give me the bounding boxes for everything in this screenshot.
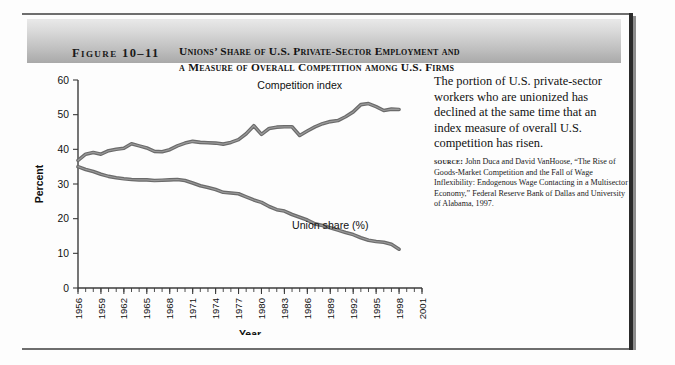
y-tick-label: 60 bbox=[58, 75, 70, 86]
figure-number-label: Figure 10–11 bbox=[72, 46, 160, 61]
x-tick-label: 1977 bbox=[233, 298, 244, 319]
figure-caption-body: The portion of U.S. private-sector worke… bbox=[434, 74, 626, 152]
figure-source-note: source: John Duca and David VanHoose, “T… bbox=[434, 157, 630, 210]
series-annotation-2: Union share (%) bbox=[292, 219, 369, 231]
chart-canvas: 0102030405060Percent19561959196219651968… bbox=[30, 70, 430, 335]
x-tick-label: 1956 bbox=[73, 298, 84, 319]
x-tick-label: 1989 bbox=[325, 298, 336, 319]
page-edge-right-shadow bbox=[633, 16, 636, 350]
x-tick-label: 1962 bbox=[118, 298, 129, 319]
series-annotation-1: Competition index bbox=[257, 79, 342, 91]
line-chart: 0102030405060Percent19561959196219651968… bbox=[30, 70, 430, 335]
x-tick-label: 1995 bbox=[371, 298, 382, 319]
series-highlight-2 bbox=[78, 167, 399, 250]
page-rule-top bbox=[22, 13, 630, 15]
x-tick-label: 1986 bbox=[302, 298, 313, 319]
x-tick-label: 1965 bbox=[141, 298, 152, 319]
x-tick-label: 1959 bbox=[96, 298, 107, 319]
figure-banner: Figure 10–11 Unions’ Share of U.S. Priva… bbox=[27, 19, 621, 63]
source-kicker: source: bbox=[434, 157, 463, 166]
y-tick-label: 10 bbox=[58, 248, 70, 259]
y-tick-label: 30 bbox=[58, 179, 70, 190]
x-tick-label: 1968 bbox=[164, 298, 175, 319]
source-citation-text: John Duca and David VanHoose, “The Rise … bbox=[434, 157, 628, 208]
y-tick-label: 0 bbox=[63, 283, 69, 294]
y-tick-label: 20 bbox=[58, 213, 70, 224]
x-tick-label: 1983 bbox=[279, 298, 290, 319]
x-tick-label: 1980 bbox=[256, 298, 267, 319]
x-tick-label: 1992 bbox=[348, 298, 359, 319]
x-tick-label: 1974 bbox=[210, 297, 221, 319]
figure-title-line-1: Unions’ Share of U.S. Private-Sector Emp… bbox=[179, 45, 460, 57]
y-tick-label: 40 bbox=[58, 144, 70, 155]
x-axis-title: Year bbox=[239, 328, 261, 335]
series-line-1 bbox=[78, 104, 399, 161]
y-tick-label: 50 bbox=[58, 109, 70, 120]
page-rule-bottom bbox=[22, 348, 630, 350]
x-tick-label: 1971 bbox=[187, 298, 198, 319]
x-tick-label: 2001 bbox=[417, 298, 428, 319]
x-tick-label: 1998 bbox=[394, 298, 405, 319]
figure-page: Figure 10–11 Unions’ Share of U.S. Priva… bbox=[0, 0, 675, 365]
y-axis-title: Percent bbox=[33, 164, 45, 203]
